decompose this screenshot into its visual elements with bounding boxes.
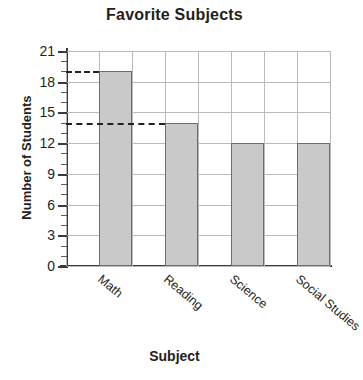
y-axis-minor-tick	[61, 164, 67, 165]
chart-title: Favorite Subjects	[0, 6, 349, 24]
grid-line-vertical	[198, 51, 199, 266]
x-axis-category-label: Reading	[161, 272, 206, 313]
y-axis-tick-label: 15	[39, 104, 55, 120]
y-axis-tick	[58, 51, 67, 53]
dashed-leader-line	[66, 71, 99, 73]
y-axis-minor-tick	[61, 246, 67, 247]
y-axis-tick	[58, 266, 67, 268]
bar	[165, 123, 198, 266]
y-axis-minor-tick	[61, 61, 67, 62]
x-axis-category-label: Social Studies	[293, 272, 363, 334]
y-axis-tick-label: 21	[39, 43, 55, 59]
y-axis-tick	[58, 112, 67, 114]
y-axis-minor-tick	[61, 133, 67, 134]
grid-line-vertical	[132, 51, 133, 266]
y-axis-minor-tick	[61, 256, 67, 257]
y-axis-tick-label: 18	[39, 74, 55, 90]
y-axis-tick-label: 0	[47, 258, 55, 274]
y-axis-minor-tick	[61, 153, 67, 154]
y-axis-tick-label: 3	[47, 227, 55, 243]
plot-area: 036912151821	[66, 51, 330, 266]
dashed-leader-line	[66, 123, 165, 125]
grid-line-vertical	[330, 51, 331, 266]
bar	[99, 71, 132, 266]
grid-line-horizontal	[66, 266, 330, 267]
y-axis-tick	[58, 174, 67, 176]
y-axis-minor-tick	[61, 184, 67, 185]
y-axis-minor-tick	[61, 92, 67, 93]
grid-line-vertical	[264, 51, 265, 266]
x-axis-category-label: Math	[95, 272, 125, 301]
y-axis-tick	[58, 205, 67, 207]
grid-line-horizontal	[66, 51, 330, 52]
x-axis-category-label: Science	[227, 272, 270, 311]
y-axis-tick-label: 9	[47, 166, 55, 182]
x-axis-title: Subject	[0, 348, 349, 364]
y-axis-tick	[58, 143, 67, 145]
y-axis-tick	[58, 82, 67, 84]
y-axis-title: Number of Students	[19, 68, 34, 248]
bar	[297, 143, 330, 266]
y-axis-tick-label: 6	[47, 197, 55, 213]
y-axis-tick	[58, 235, 67, 237]
y-axis-tick-label: 12	[39, 135, 55, 151]
y-axis-minor-tick	[61, 225, 67, 226]
y-axis-minor-tick	[61, 102, 67, 103]
bar	[231, 143, 264, 266]
y-axis-minor-tick	[61, 215, 67, 216]
y-axis-minor-tick	[61, 194, 67, 195]
